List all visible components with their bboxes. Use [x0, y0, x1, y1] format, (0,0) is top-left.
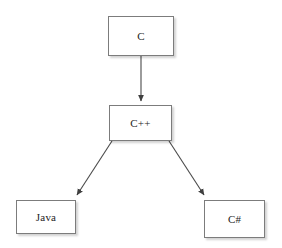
node-c[interactable]: C [108, 16, 174, 56]
node-java-label: Java [36, 212, 56, 223]
diagram-canvas: C C++ Java C# [0, 0, 282, 248]
node-csharp[interactable]: C# [204, 200, 265, 238]
node-c-label: C [137, 31, 145, 42]
node-cpp-label: C++ [130, 118, 150, 129]
node-java[interactable]: Java [16, 200, 76, 234]
edge-cpp-to-java [77, 141, 112, 195]
edge-cpp-to-csharp [169, 141, 204, 195]
node-csharp-label: C# [228, 214, 241, 225]
node-cpp[interactable]: C++ [109, 105, 172, 141]
